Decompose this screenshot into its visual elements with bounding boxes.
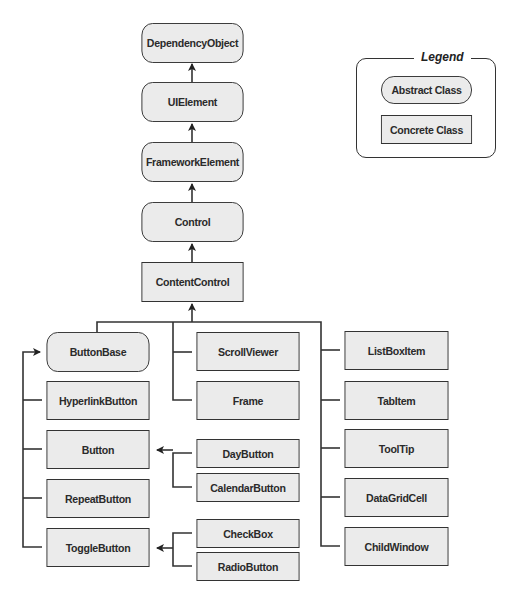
node-tool-tip: ToolTip [345, 429, 449, 468]
node-child-window: ChildWindow [345, 527, 449, 566]
node-radio-button: RadioButton [196, 552, 299, 581]
node-data-grid-cell: DataGridCell [345, 478, 449, 517]
node-control: Control [141, 202, 243, 242]
node-scroll-viewer: ScrollViewer [196, 332, 299, 371]
node-dependency-object: DependencyObject [141, 23, 243, 63]
legend-title: Legend [414, 50, 471, 64]
node-calendar-button: CalendarButton [196, 473, 299, 502]
node-repeat-button: RepeatButton [46, 479, 149, 518]
node-content-control: ContentControl [141, 262, 243, 302]
node-button-base: ButtonBase [46, 332, 149, 372]
node-hyperlink-button: HyperlinkButton [46, 381, 149, 420]
node-frame: Frame [196, 381, 299, 420]
node-framework-element: FrameworkElement [141, 142, 243, 182]
node-toggle-button: ToggleButton [46, 528, 149, 567]
legend-concrete-class: Concrete Class [381, 115, 472, 144]
node-ui-element: UIElement [141, 82, 243, 122]
legend-abstract-class: Abstract Class [381, 76, 472, 104]
node-tab-item: TabItem [345, 381, 449, 420]
node-check-box: CheckBox [196, 519, 299, 548]
node-day-button: DayButton [196, 439, 299, 468]
node-list-box-item: ListBoxItem [345, 331, 449, 370]
node-button: Button [46, 430, 149, 469]
